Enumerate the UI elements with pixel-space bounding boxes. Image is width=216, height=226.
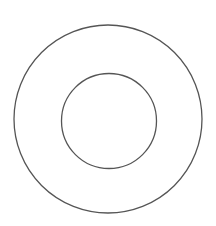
background (0, 0, 216, 226)
concentric-circles-diagram (0, 0, 216, 226)
